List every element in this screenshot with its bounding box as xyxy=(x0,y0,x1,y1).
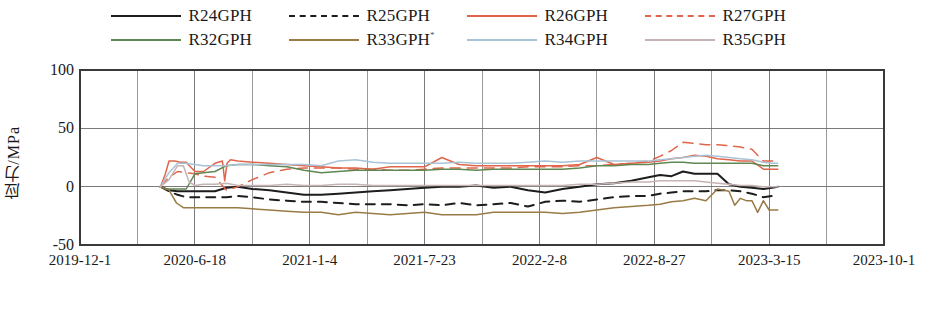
legend-label: R33GPH* xyxy=(361,30,435,50)
x-tick-label: 2022-8-27 xyxy=(623,252,686,269)
x-tick-label: 2023-3-15 xyxy=(738,252,801,269)
x-tick-label: 2023-10-1 xyxy=(853,252,916,269)
legend-line-swatch-icon xyxy=(287,9,361,23)
legend-label: R26GPH xyxy=(539,6,609,26)
legend-item-r27gph[interactable]: R27GPH xyxy=(643,6,821,26)
legend-item-r34gph[interactable]: R34GPH xyxy=(465,30,643,50)
x-tick-label: 2021-1-4 xyxy=(282,252,337,269)
legend-item-r26gph[interactable]: R26GPH xyxy=(465,6,643,26)
legend-line-swatch-icon xyxy=(465,33,539,47)
legend-item-r25gph[interactable]: R25GPH xyxy=(287,6,465,26)
legend-line-swatch-icon xyxy=(465,9,539,23)
legend-item-r24gph[interactable]: R24GPH xyxy=(109,6,287,26)
legend-line-swatch-icon xyxy=(109,33,183,47)
legend-line-swatch-icon xyxy=(643,33,717,47)
legend-row: R24GPHR25GPHR26GPHR27GPH xyxy=(0,4,929,28)
legend-label: R25GPH xyxy=(361,6,431,26)
legend-footnote-marker: * xyxy=(430,30,435,40)
legend-item-r35gph[interactable]: R35GPH xyxy=(643,30,821,50)
legend-item-r32gph[interactable]: R32GPH xyxy=(109,30,287,50)
x-tick-label: 2022-2-8 xyxy=(512,252,567,269)
legend-label: R32GPH xyxy=(183,30,253,50)
legend-label: R34GPH xyxy=(539,30,609,50)
x-axis-ticks: 2019-12-12020-6-182021-1-42021-7-232022-… xyxy=(0,56,929,314)
legend-line-swatch-icon xyxy=(109,9,183,23)
plot-area-wrapper: 应力/MPa 100500-50 2019-12-12020-6-182021-… xyxy=(0,56,929,314)
x-tick-label: 2021-7-23 xyxy=(393,252,456,269)
legend-line-swatch-icon xyxy=(643,9,717,23)
legend-line-swatch-icon xyxy=(287,33,361,47)
x-tick-label: 2020-6-18 xyxy=(164,252,227,269)
stress-time-series-chart: R24GPHR25GPHR26GPHR27GPHR32GPHR33GPH*R34… xyxy=(0,0,929,314)
legend-row: R32GPHR33GPH*R34GPHR35GPH xyxy=(0,28,929,52)
legend-item-r33gph[interactable]: R33GPH* xyxy=(287,30,465,50)
legend-label: R27GPH xyxy=(717,6,787,26)
legend-label: R35GPH xyxy=(717,30,787,50)
chart-legend: R24GPHR25GPHR26GPHR27GPHR32GPHR33GPH*R34… xyxy=(0,4,929,56)
legend-label: R24GPH xyxy=(183,6,253,26)
x-tick-label: 2019-12-1 xyxy=(49,252,112,269)
